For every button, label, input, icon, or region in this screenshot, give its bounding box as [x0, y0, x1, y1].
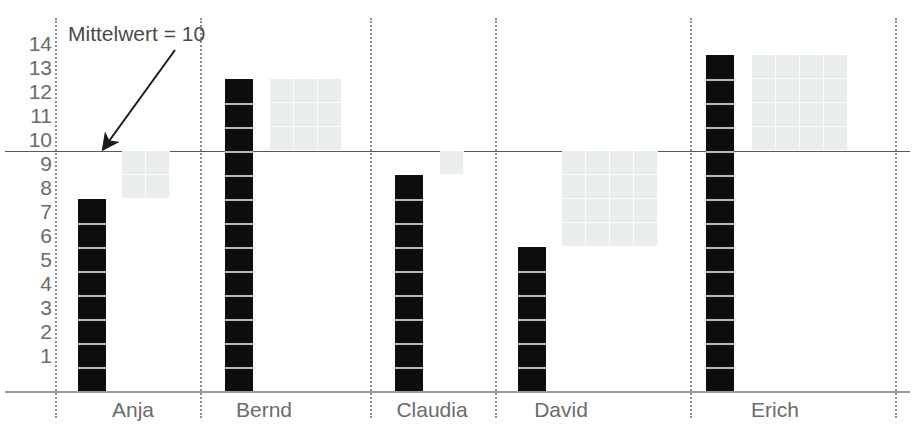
y-axis-tick-label: 4 — [8, 272, 52, 296]
bar-segment-divider — [78, 223, 106, 225]
bar-segment-divider — [225, 271, 253, 273]
chart-canvas: 1413121110987654321 Mittelwert = 10 Anja… — [0, 0, 919, 433]
mean-annotation-arrow — [80, 44, 190, 162]
bar-segment-divider — [518, 343, 546, 345]
bar-segment-divider — [395, 343, 423, 345]
bar-segment-divider — [78, 271, 106, 273]
y-axis-tick-label: 9 — [8, 152, 52, 176]
mean-annotation-label: Mittelwert = 10 — [68, 22, 205, 46]
deviation-square-claudia — [440, 151, 464, 175]
bar-segment-divider — [225, 175, 253, 177]
x-axis-label-bernd: Bernd — [194, 398, 334, 422]
bar-segment-divider — [706, 271, 734, 273]
bar-segment-divider — [395, 223, 423, 225]
bar-segment-divider — [706, 223, 734, 225]
deviation-square-bernd — [270, 79, 342, 151]
bar-segment-divider — [225, 151, 253, 153]
x-axis-label-david: David — [491, 398, 631, 422]
y-axis-tick-label: 8 — [8, 176, 52, 200]
bar-claudia[interactable] — [395, 175, 423, 391]
bar-segment-divider — [706, 103, 734, 105]
bar-segment-divider — [706, 343, 734, 345]
category-separator — [895, 18, 897, 418]
y-axis-tick-label: 12 — [8, 80, 52, 104]
bar-david[interactable] — [518, 247, 546, 391]
bar-segment-divider — [78, 367, 106, 369]
y-axis-tick-label: 7 — [8, 200, 52, 224]
y-axis-tick-label: 1 — [8, 344, 52, 368]
bar-segment-divider — [225, 295, 253, 297]
bar-segment-divider — [518, 319, 546, 321]
bar-segment-divider — [706, 367, 734, 369]
category-separator — [55, 18, 57, 418]
bar-segment-divider — [706, 295, 734, 297]
bar-segment-divider — [518, 367, 546, 369]
bar-segment-divider — [225, 367, 253, 369]
bar-segment-divider — [706, 247, 734, 249]
bar-segment-divider — [225, 223, 253, 225]
bar-segment-divider — [225, 247, 253, 249]
bar-segment-divider — [395, 295, 423, 297]
y-axis-tick-label: 5 — [8, 248, 52, 272]
category-separator — [690, 18, 692, 418]
bar-segment-divider — [706, 175, 734, 177]
bar-segment-divider — [706, 199, 734, 201]
x-axis-label-claudia: Claudia — [362, 398, 502, 422]
bar-bernd[interactable] — [225, 79, 253, 391]
category-separator — [495, 18, 497, 418]
bar-segment-divider — [78, 343, 106, 345]
bar-segment-divider — [78, 319, 106, 321]
bar-segment-divider — [78, 295, 106, 297]
category-separator — [200, 18, 202, 418]
bar-segment-divider — [518, 295, 546, 297]
y-axis-tick-label: 6 — [8, 224, 52, 248]
y-axis: 1413121110987654321 — [0, 0, 52, 433]
bar-segment-divider — [706, 151, 734, 153]
y-axis-tick-label: 3 — [8, 296, 52, 320]
bar-segment-divider — [395, 319, 423, 321]
y-axis-tick-label: 2 — [8, 320, 52, 344]
y-axis-tick-label: 13 — [8, 56, 52, 80]
bar-segment-divider — [395, 199, 423, 201]
bar-segment-divider — [225, 343, 253, 345]
bar-segment-divider — [225, 103, 253, 105]
x-axis-label-anja: Anja — [63, 398, 203, 422]
category-separator — [370, 18, 372, 418]
bar-segment-divider — [706, 79, 734, 81]
x-axis-label-erich: Erich — [705, 398, 845, 422]
y-axis-tick-label: 14 — [8, 32, 52, 56]
bar-segment-divider — [395, 271, 423, 273]
bar-erich[interactable] — [706, 55, 734, 391]
bar-segment-divider — [395, 367, 423, 369]
bar-segment-divider — [225, 319, 253, 321]
bar-segment-divider — [706, 319, 734, 321]
bar-anja[interactable] — [78, 199, 106, 391]
deviation-square-david — [562, 151, 658, 247]
x-axis-baseline — [5, 391, 910, 393]
bar-segment-divider — [225, 199, 253, 201]
deviation-square-erich — [752, 55, 848, 151]
bar-segment-divider — [78, 247, 106, 249]
bar-segment-divider — [225, 127, 253, 129]
bar-segment-divider — [395, 247, 423, 249]
bar-segment-divider — [518, 271, 546, 273]
bar-segment-divider — [706, 127, 734, 129]
y-axis-tick-label: 10 — [8, 128, 52, 152]
y-axis-tick-label: 11 — [8, 104, 52, 128]
